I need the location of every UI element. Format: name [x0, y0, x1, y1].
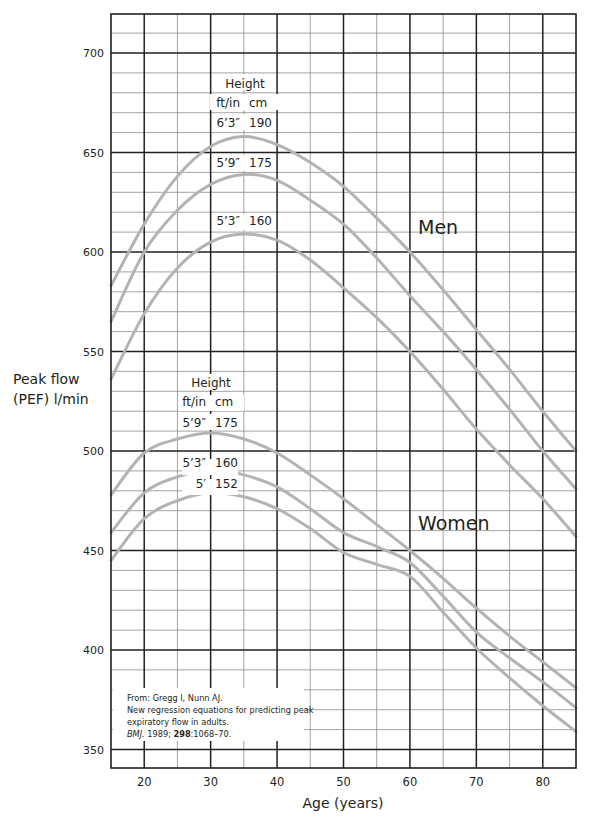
- men-label: Men: [418, 216, 458, 238]
- height-label: 160: [215, 456, 238, 470]
- height-label: 190: [249, 116, 272, 130]
- height-label: cm: [215, 395, 233, 409]
- source-line-1: From: Gregg I, Nunn AJ.: [127, 693, 223, 703]
- height-label: Height: [225, 77, 265, 91]
- height-label: 152: [215, 477, 238, 491]
- y-tick-label: 600: [83, 246, 104, 259]
- height-label: 5’3″: [216, 214, 240, 228]
- citation-volume: 298: [174, 729, 191, 739]
- height-label: 5′: [196, 477, 207, 491]
- source-line-2: New regression equations for predicting …: [127, 705, 314, 715]
- height-label: 5’9″: [182, 416, 206, 430]
- source-citation: BMJ. 1989; 298:1068–70.: [127, 729, 231, 739]
- y-tick-label: 650: [83, 147, 104, 160]
- source-line-3: expiratory flow in adults.: [127, 717, 229, 727]
- y-tick-label: 350: [83, 744, 104, 757]
- height-labels: Heightft/incm6’3″1905’9″1755’3″160Height…: [178, 74, 278, 495]
- height-label: 5’3″: [182, 456, 206, 470]
- y-tick-label: 550: [83, 346, 104, 359]
- citation-pages: :1068–70.: [191, 729, 232, 739]
- height-label: ft/in: [216, 96, 240, 110]
- x-axis-title: Age (years): [303, 795, 384, 811]
- y-tick-label: 450: [83, 545, 104, 558]
- x-tick-label: 20: [137, 775, 152, 789]
- height-label: cm: [249, 96, 267, 110]
- y-axis-title-line1: Peak flow: [13, 371, 80, 387]
- y-tick-label: 400: [83, 644, 104, 657]
- height-label: 175: [215, 416, 238, 430]
- x-tick-labels: 20304050607080: [137, 775, 550, 789]
- x-tick-label: 30: [203, 775, 218, 789]
- peak-flow-chart: Heightft/incm6’3″1905’9″1755’3″160Height…: [0, 0, 591, 833]
- height-label: 5’9″: [216, 156, 240, 170]
- source-box: From: Gregg I, Nunn AJ. New regression e…: [113, 688, 314, 741]
- citation-year: 1989;: [145, 729, 174, 739]
- y-tick-label: 500: [83, 445, 104, 458]
- x-tick-label: 50: [336, 775, 351, 789]
- y-tick-label: 700: [83, 47, 104, 60]
- y-axis-title-line2: (PEF) l/min: [13, 391, 89, 407]
- height-label: 6’3″: [216, 116, 240, 130]
- height-label: ft/in: [182, 395, 206, 409]
- height-label: Height: [191, 376, 231, 390]
- x-tick-label: 80: [535, 775, 550, 789]
- women-label: Women: [418, 512, 490, 534]
- x-tick-label: 40: [270, 775, 285, 789]
- citation-journal: BMJ.: [127, 729, 145, 739]
- x-tick-label: 70: [469, 775, 484, 789]
- height-label: 160: [249, 214, 272, 228]
- height-label: 175: [249, 156, 272, 170]
- x-tick-label: 60: [403, 775, 418, 789]
